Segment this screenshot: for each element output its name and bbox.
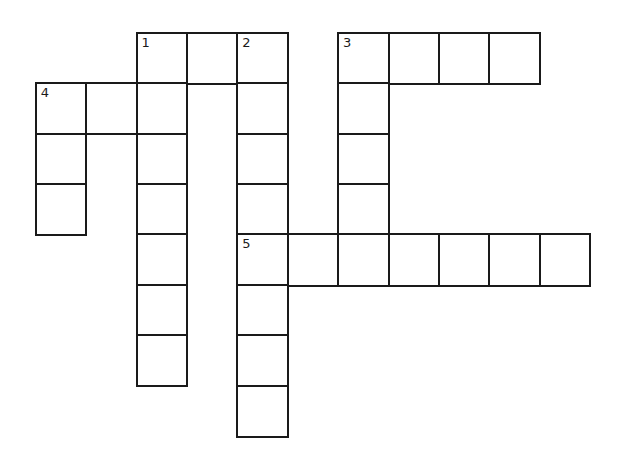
- crossword-cell[interactable]: [85, 82, 138, 135]
- crossword-cell[interactable]: [337, 233, 390, 286]
- crossword-cell[interactable]: [236, 183, 289, 236]
- crossword-cell[interactable]: [337, 183, 390, 236]
- clue-number: 5: [242, 236, 250, 251]
- crossword-cell[interactable]: [186, 32, 239, 85]
- clue-number: 2: [242, 35, 250, 50]
- crossword-cell[interactable]: [539, 233, 592, 286]
- crossword-cell[interactable]: [236, 284, 289, 337]
- crossword-cell[interactable]: [337, 133, 390, 186]
- clue-number: 4: [41, 85, 49, 100]
- crossword-cell[interactable]: [136, 133, 189, 186]
- crossword-cell[interactable]: [236, 82, 289, 135]
- crossword-cell[interactable]: 5: [236, 233, 289, 286]
- crossword-cell[interactable]: 2: [236, 32, 289, 85]
- crossword-cell[interactable]: [35, 183, 88, 236]
- crossword-cell[interactable]: [136, 183, 189, 236]
- crossword-cell[interactable]: [136, 284, 189, 337]
- crossword-cell[interactable]: [236, 385, 289, 438]
- crossword-cell[interactable]: [488, 32, 541, 85]
- crossword-cell[interactable]: [438, 32, 491, 85]
- crossword-cell[interactable]: [287, 233, 340, 286]
- crossword-cell[interactable]: [236, 334, 289, 387]
- crossword-cell[interactable]: 1: [136, 32, 189, 85]
- crossword-cell[interactable]: [488, 233, 541, 286]
- crossword-cell[interactable]: [388, 32, 441, 85]
- crossword-cell[interactable]: [236, 133, 289, 186]
- crossword-cell[interactable]: 4: [35, 82, 88, 135]
- crossword-cell[interactable]: [388, 233, 441, 286]
- crossword-cell[interactable]: [136, 82, 189, 135]
- crossword-grid: 12345: [0, 0, 622, 468]
- crossword-cell[interactable]: [35, 133, 88, 186]
- crossword-cell[interactable]: [337, 82, 390, 135]
- crossword-cell[interactable]: [136, 334, 189, 387]
- crossword-cell[interactable]: [136, 233, 189, 286]
- clue-number: 3: [343, 35, 351, 50]
- crossword-cell[interactable]: 3: [337, 32, 390, 85]
- crossword-cell[interactable]: [438, 233, 491, 286]
- clue-number: 1: [142, 35, 150, 50]
